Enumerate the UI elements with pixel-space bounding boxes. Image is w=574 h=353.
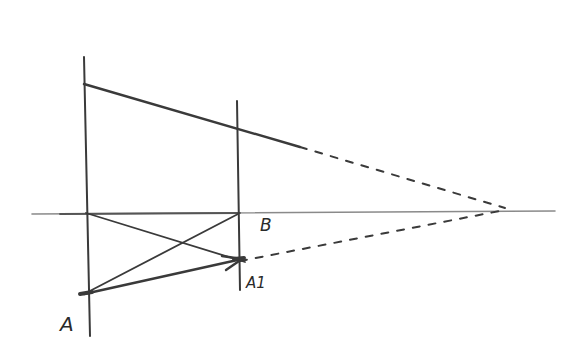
point-a-mark (80, 292, 92, 294)
arrow-a-to-a1 (84, 259, 242, 294)
diagonal-to-a1 (86, 213, 245, 262)
sketch-diagram (0, 0, 574, 353)
label-a: A (60, 314, 74, 334)
top-converging-dashed (300, 147, 505, 208)
point-a1-mark (234, 258, 244, 259)
label-b: B (260, 217, 272, 234)
top-converging-line (84, 84, 300, 147)
bottom-converging-dashed (240, 210, 505, 261)
label-a1: A1 (246, 276, 266, 291)
